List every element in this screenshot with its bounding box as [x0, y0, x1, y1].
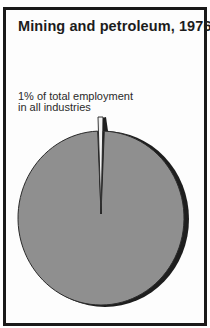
pie-chart	[0, 0, 210, 328]
